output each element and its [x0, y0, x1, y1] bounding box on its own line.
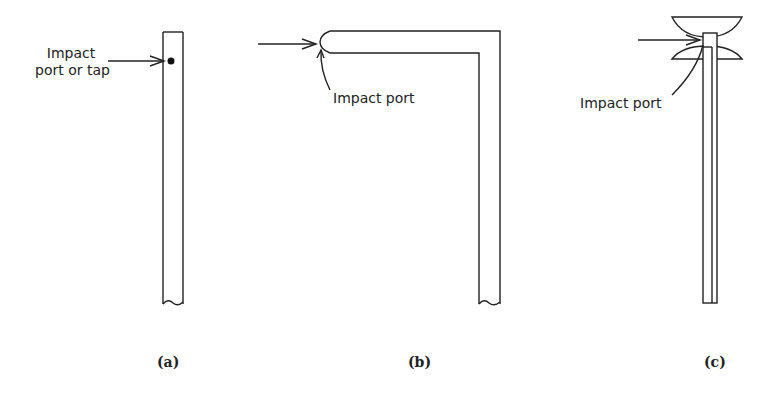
figure-b-arrow — [258, 39, 330, 90]
label-line-1: Impact — [35, 45, 107, 62]
figure-b-tube — [320, 31, 500, 305]
figure-a-arrow — [108, 56, 164, 66]
impact-port-dot — [168, 58, 175, 65]
figure-c-arrow — [638, 35, 703, 95]
figure-c-tube — [672, 17, 742, 303]
figure-b-label: Impact port — [333, 90, 415, 107]
figure-c-caption: (c) — [704, 354, 726, 370]
figure-c-label: Impact port — [580, 95, 662, 112]
figure-b-caption: (b) — [408, 354, 431, 370]
figure-a-label: Impact port or tap — [35, 45, 107, 79]
figure-a-caption: (a) — [157, 354, 179, 370]
label-line-2: port or tap — [35, 62, 107, 79]
diagram-canvas — [0, 0, 769, 395]
figure-a-tube — [163, 32, 183, 305]
